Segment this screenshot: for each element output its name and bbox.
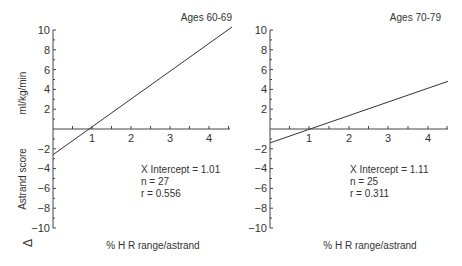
svg-text:3: 3 bbox=[385, 132, 391, 144]
svg-text:2: 2 bbox=[44, 103, 50, 115]
svg-text:8: 8 bbox=[44, 44, 50, 56]
right-y-tick-labels: 10 8 6 4 2 −2 −4 −6 −8 −10 bbox=[248, 24, 267, 234]
svg-text:−8: −8 bbox=[254, 202, 267, 214]
left-xlabel: % H R range/astrand bbox=[106, 240, 199, 251]
svg-text:10: 10 bbox=[255, 24, 267, 36]
svg-text:4: 4 bbox=[44, 83, 50, 95]
left-x-intercept: X Intercept = 1.01 bbox=[141, 164, 221, 175]
svg-text:2: 2 bbox=[128, 132, 134, 144]
right-x-intercept: X Intercept = 1.11 bbox=[350, 164, 429, 175]
left-chart-title: Ages 60-69 bbox=[181, 12, 233, 23]
svg-text:3: 3 bbox=[167, 132, 173, 144]
svg-text:4: 4 bbox=[425, 132, 431, 144]
left-r: r = 0.556 bbox=[141, 188, 181, 199]
left-ylabel-upper: ml/kg/min bbox=[17, 72, 28, 115]
svg-text:2: 2 bbox=[261, 103, 267, 115]
svg-text:−2: −2 bbox=[37, 143, 50, 155]
right-x-tick-labels: 1 2 3 4 bbox=[306, 132, 431, 144]
left-chart: Ages 60-69 10 8 6 4 2 −2 −4 −6 −8 bbox=[17, 12, 232, 251]
right-r: r = 0.311 bbox=[350, 188, 389, 199]
svg-text:4: 4 bbox=[261, 83, 267, 95]
right-xlabel: % H R range/astrand bbox=[323, 240, 416, 251]
right-chart-title: Ages 70-79 bbox=[390, 12, 442, 23]
svg-text:1: 1 bbox=[89, 132, 95, 144]
svg-text:6: 6 bbox=[44, 64, 50, 76]
svg-text:4: 4 bbox=[206, 132, 212, 144]
right-chart: Ages 70-79 10 8 6 4 2 −2 −4 −6 −8 −10 bbox=[248, 12, 448, 251]
left-ylabel-lower: Astrand score bbox=[17, 148, 28, 210]
svg-text:−10: −10 bbox=[248, 222, 267, 234]
svg-text:2: 2 bbox=[346, 132, 352, 144]
svg-text:−2: −2 bbox=[254, 143, 267, 155]
svg-text:−4: −4 bbox=[254, 162, 267, 174]
svg-text:10: 10 bbox=[38, 24, 50, 36]
svg-text:−10: −10 bbox=[31, 222, 50, 234]
svg-text:−4: −4 bbox=[37, 162, 50, 174]
left-n: n = 27 bbox=[141, 176, 170, 187]
svg-text:−8: −8 bbox=[37, 202, 50, 214]
right-n: n = 25 bbox=[350, 176, 379, 187]
left-x-tick-labels: 1 2 3 4 bbox=[89, 132, 212, 144]
figure: Ages 60-69 10 8 6 4 2 −2 −4 −6 −8 bbox=[0, 0, 462, 266]
svg-text:−6: −6 bbox=[254, 182, 267, 194]
left-y-tick-labels: 10 8 6 4 2 −2 −4 −6 −8 −10 bbox=[31, 24, 50, 234]
delta-symbol: Δ bbox=[21, 239, 35, 247]
svg-text:8: 8 bbox=[261, 44, 267, 56]
right-regression-line bbox=[270, 81, 448, 143]
svg-text:−6: −6 bbox=[37, 182, 50, 194]
svg-text:6: 6 bbox=[261, 64, 267, 76]
svg-text:1: 1 bbox=[306, 132, 312, 144]
